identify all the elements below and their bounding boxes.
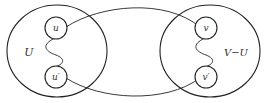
node-v-prime-label: v′ <box>202 72 209 82</box>
node-u-label: u <box>53 23 59 33</box>
set-v-minus-u-label: V−U <box>224 47 249 58</box>
edge-u-v <box>66 8 200 27</box>
path-u-u-prime <box>46 39 63 67</box>
set-u-label: U <box>24 46 34 59</box>
edge-u-prime-v-prime <box>66 78 200 96</box>
graph-cut-diagram: u u′ v v′ U V−U <box>0 0 264 103</box>
path-v-v-prime <box>196 39 213 67</box>
node-u-prime-label: u′ <box>52 72 60 82</box>
node-v-label: v <box>203 23 208 33</box>
